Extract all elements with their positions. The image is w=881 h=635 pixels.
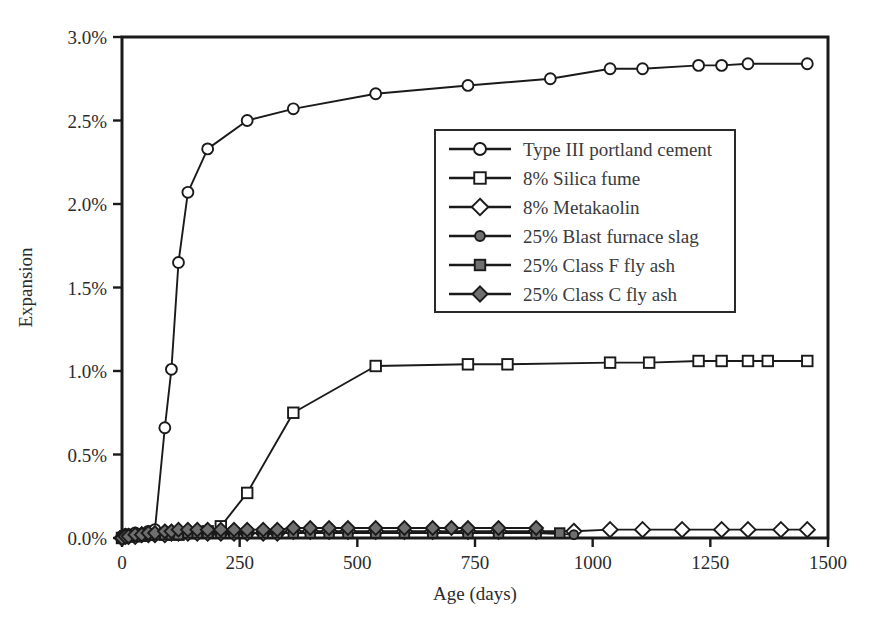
expansion-vs-age-chart: 02505007501000125015000.0%0.5%1.0%1.5%2.… (0, 0, 881, 635)
marker-diamond-open (714, 522, 729, 537)
chart-canvas: 02505007501000125015000.0%0.5%1.0%1.5%2.… (0, 0, 881, 635)
marker-circle-open (202, 143, 213, 154)
marker-circle-fill (475, 231, 485, 241)
x-tick-label: 1250 (691, 552, 729, 573)
marker-diamond-open (740, 522, 755, 537)
marker-square-open (716, 356, 727, 367)
marker-circle-open (242, 115, 253, 126)
marker-circle-open (159, 422, 170, 433)
x-tick-label: 750 (461, 552, 490, 573)
legend-label: 25% Blast furnace slag (523, 226, 699, 247)
x-tick-label: 0 (117, 552, 127, 573)
marker-circle-open (693, 60, 704, 71)
marker-circle-open (288, 103, 299, 114)
marker-diamond-open (675, 522, 690, 537)
x-tick-label: 500 (343, 552, 372, 573)
marker-diamond-open (603, 522, 618, 537)
marker-circle-open (462, 80, 473, 91)
x-tick-label: 1500 (809, 552, 847, 573)
marker-square-open (502, 359, 513, 370)
marker-square-open (474, 172, 486, 184)
x-axis-title: Age (days) (433, 583, 517, 605)
marker-square-fill (555, 528, 565, 538)
y-tick-label: 2.5% (67, 111, 107, 132)
marker-diamond-open (773, 522, 788, 537)
y-tick-label: 1.5% (67, 278, 107, 299)
y-axis-title: Expansion (15, 247, 36, 328)
marker-diamond-open (800, 522, 815, 537)
marker-square-open (644, 357, 655, 368)
marker-circle-open (166, 364, 177, 375)
y-tick-label: 2.0% (67, 194, 107, 215)
legend-label: Type III portland cement (523, 139, 713, 160)
marker-circle-open (802, 58, 813, 69)
marker-circle-open (716, 60, 727, 71)
marker-square-open (463, 359, 474, 370)
marker-circle-open (743, 58, 754, 69)
marker-diamond-open (635, 522, 650, 537)
x-tick-label: 250 (225, 552, 254, 573)
marker-square-open (802, 356, 813, 367)
series-1 (117, 356, 813, 544)
y-tick-label: 3.0% (67, 27, 107, 48)
legend-label: 25% Class C fly ash (523, 284, 678, 305)
marker-square-fill (475, 260, 486, 271)
marker-square-open (605, 357, 616, 368)
marker-circle-open (637, 63, 648, 74)
marker-circle-open (182, 187, 193, 198)
legend-label: 8% Metakaolin (523, 197, 640, 218)
marker-square-open (288, 408, 299, 419)
marker-square-open (743, 356, 754, 367)
marker-square-open (693, 356, 704, 367)
marker-circle-open (370, 88, 381, 99)
y-tick-label: 0.0% (67, 528, 107, 549)
y-tick-label: 1.0% (67, 361, 107, 382)
legend-label: 8% Silica fume (523, 168, 640, 189)
marker-circle-open (545, 73, 556, 84)
y-tick-label: 0.5% (67, 445, 107, 466)
x-tick-label: 1000 (574, 552, 612, 573)
marker-square-open (242, 488, 253, 499)
legend-label: 25% Class F fly ash (523, 255, 676, 276)
marker-square-open (763, 356, 774, 367)
marker-square-open (370, 361, 381, 372)
marker-circle-fill (569, 530, 578, 539)
marker-circle-open (605, 63, 616, 74)
series-line (122, 361, 807, 538)
legend: Type III portland cement8% Silica fume8%… (435, 130, 735, 312)
marker-circle-open (474, 143, 486, 155)
marker-circle-open (173, 257, 184, 268)
